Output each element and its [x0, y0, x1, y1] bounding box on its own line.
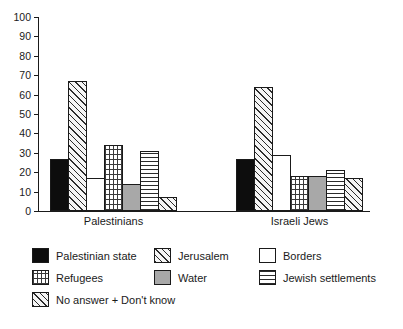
bar [344, 178, 363, 211]
bar [122, 184, 141, 211]
y-tick-label: 50 [19, 109, 31, 120]
y-tick-mark [34, 211, 38, 212]
bar [68, 81, 87, 211]
legend-label: Borders [283, 250, 322, 262]
bar [104, 145, 123, 211]
legend-label: Refugees [56, 272, 103, 284]
bar [236, 159, 255, 211]
y-tick-label: 70 [19, 70, 31, 81]
legend-swatch-icon [154, 248, 171, 263]
x-axis-line [38, 211, 370, 212]
y-tick-label: 80 [19, 51, 31, 62]
y-tick-label: 30 [19, 148, 31, 159]
bar [254, 87, 273, 211]
legend-item-borders: Borders [259, 248, 322, 263]
legend-label: Jewish settlements [283, 272, 376, 284]
legend-swatch-icon [259, 270, 276, 285]
bar [158, 197, 177, 211]
legend-item-water: Water [154, 270, 259, 285]
y-tick-label: 60 [19, 89, 31, 100]
chart-legend: Palestinian stateJerusalemBordersRefugee… [32, 247, 392, 313]
y-tick-label: 20 [19, 167, 31, 178]
bar [140, 151, 159, 211]
y-tick-label: 100 [13, 12, 31, 23]
legend-swatch-icon [259, 248, 276, 263]
y-tick-label: 90 [19, 31, 31, 42]
legend-swatch-icon [32, 248, 49, 263]
legend-row: RefugeesWaterJewish settlements [32, 269, 392, 286]
category-label-israeli-jews: Israeli Jews [271, 215, 328, 227]
legend-item-no-answer-don-t-know: No answer + Don't know [32, 292, 154, 307]
plot-area [38, 17, 370, 211]
legend-row: Palestinian stateJerusalemBorders [32, 247, 392, 264]
legend-label: Palestinian state [56, 250, 137, 262]
bar-chart: 0102030405060708090100 PalestiniansIsrae… [0, 0, 403, 329]
bar [86, 178, 105, 211]
legend-item-jerusalem: Jerusalem [154, 248, 259, 263]
bar [308, 176, 327, 211]
legend-item-refugees: Refugees [32, 270, 154, 285]
y-tick-label: 0 [25, 206, 31, 217]
y-tick-label: 40 [19, 128, 31, 139]
bar [272, 155, 291, 211]
legend-label: No answer + Don't know [56, 294, 175, 306]
bar [326, 170, 345, 211]
legend-label: Water [178, 272, 207, 284]
legend-swatch-icon [32, 270, 49, 285]
category-label-palestinians: Palestinians [84, 215, 143, 227]
legend-item-jewish-settlements: Jewish settlements [259, 270, 376, 285]
bar [50, 159, 69, 211]
legend-row: No answer + Don't know [32, 291, 392, 308]
legend-item-palestinian-state: Palestinian state [32, 248, 154, 263]
legend-swatch-icon [32, 292, 49, 307]
legend-swatch-icon [154, 270, 171, 285]
legend-label: Jerusalem [178, 250, 229, 262]
bar [290, 176, 309, 211]
y-tick-label: 10 [19, 186, 31, 197]
